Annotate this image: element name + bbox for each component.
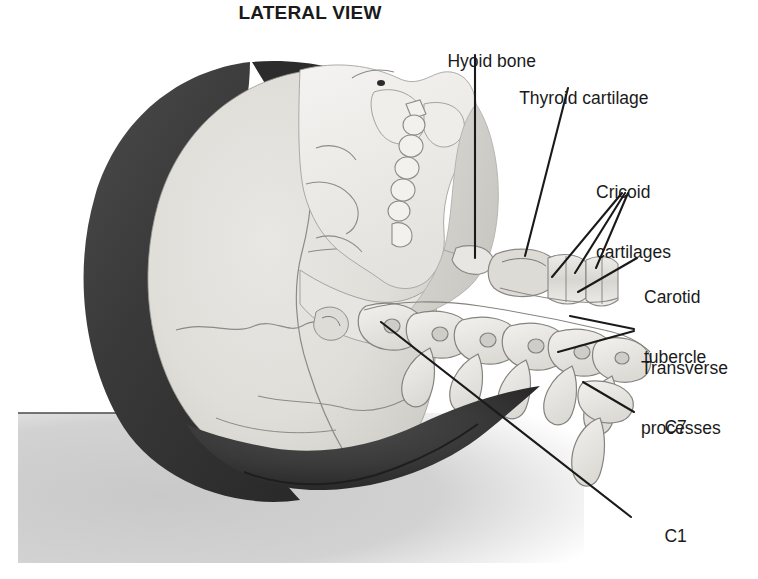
label-thyroid-cartilage-text: Thyroid cartilage bbox=[519, 88, 648, 108]
label-carotid-line1: Carotid bbox=[644, 287, 706, 307]
label-transverse-line1: Transverse bbox=[641, 358, 728, 378]
label-c7: C7 bbox=[645, 397, 687, 458]
label-cricoid-line1: Cricoid bbox=[596, 182, 671, 202]
label-c7-text: C7 bbox=[664, 417, 686, 437]
label-thyroid-cartilage: Thyroid cartilage bbox=[500, 68, 649, 129]
page-title: LATERAL VIEW bbox=[0, 2, 620, 24]
figure-page: LATERAL VIEW Hyoid bone Thyroid cartilag… bbox=[0, 0, 758, 579]
label-c1: C1 bbox=[645, 506, 687, 567]
transverse-leader-1 bbox=[570, 316, 634, 329]
label-c1-text: C1 bbox=[664, 526, 686, 546]
